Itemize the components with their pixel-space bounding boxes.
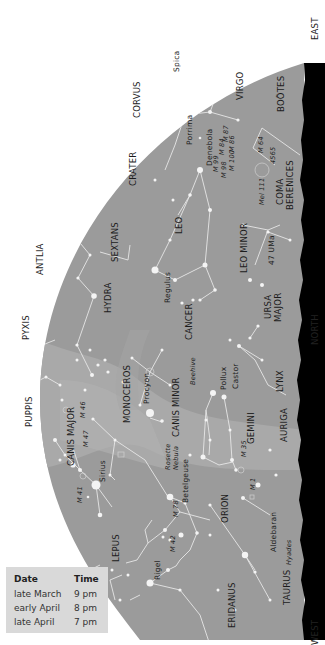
constellation-lynx: LYNX [276, 370, 285, 392]
star-procyon: Procyon [143, 373, 151, 404]
constellation-hydra: HYDRA [104, 282, 113, 313]
direction-east: EAST [311, 17, 320, 40]
star-regulus: Regulus [164, 272, 172, 303]
constellation-cancer: CANCER [185, 303, 194, 340]
object-mel-111: Mel 111 [259, 178, 266, 205]
constellation-taurus: TAURUS [283, 570, 292, 605]
object-m98: M 98 [221, 161, 228, 178]
constellation-orion: ORION [221, 494, 230, 523]
star-porrima: Porrima [186, 115, 194, 145]
constellation-canis-minor: CANIS MINOR [172, 377, 181, 437]
constellation-auriga: AURIGA [280, 408, 289, 442]
constellation-virgo: VIRGO [236, 71, 245, 100]
object-beehive: Beehive [190, 357, 197, 385]
constellation-canis-major: CANIS MAJOR [67, 407, 76, 466]
constellation-eridanus: ERIDANUS [228, 582, 237, 628]
legend-header-date: Date [14, 574, 38, 584]
constellation-coma-berenices-2: BERENICES [286, 160, 295, 210]
constellation-leo-minor: LEO MINOR [240, 223, 249, 273]
constellation-lepus: LEPUS [112, 534, 121, 562]
star-sirius: Sirius [99, 460, 107, 482]
legend-time: 7 pm [74, 617, 97, 627]
star-rigel: Rigel [154, 560, 162, 580]
constellation-monoceros: MONOCEROS [123, 365, 132, 423]
constellation-ursa-major-2: MAJOR [274, 293, 283, 322]
object-rosette-nebula: Rosette [165, 444, 172, 470]
star-aldebaran: Aldebaran [270, 512, 278, 552]
object-ngc-4565: 4565 [270, 147, 277, 164]
object-m99: M 99 [213, 155, 220, 172]
star-pollux: Pollux [220, 367, 228, 390]
star-betelgeuse: Betelgeuse [182, 459, 190, 503]
constellation-ursa-major: URSA [264, 295, 273, 319]
object-rosette-nebula-2: Nebula [173, 446, 180, 470]
constellation-crater: CRATER [129, 152, 138, 186]
constellation-sextans: SEXTANS [111, 222, 120, 262]
constellation-pyxis: PYXIS [22, 315, 31, 340]
legend-time: 9 pm [74, 589, 97, 599]
constellation-gemini: GEMINI [247, 412, 256, 444]
legend-header-time: Time [74, 574, 99, 584]
star-castor: Castor [232, 363, 240, 389]
legend-date: late April [14, 617, 55, 627]
direction-west: WEST [311, 620, 320, 645]
constellation-corvus: CORVUS [133, 81, 142, 118]
legend-date: late March [14, 589, 61, 599]
constellation-antlia: ANTLIA [36, 243, 45, 275]
object-hyades: Hyades [286, 540, 293, 565]
constellation-leo: LEO [175, 217, 184, 234]
direction-north: NORTH [311, 314, 320, 345]
object-m47: M 47 [83, 430, 90, 447]
object-m42: M 42 [170, 535, 177, 552]
legend-time: 8 pm [74, 603, 97, 613]
constellation-coma-berenices: COMA [276, 178, 285, 205]
object-m1: M 1 [250, 478, 257, 490]
object-m41: M 41 [77, 486, 84, 503]
object-m64: M 64 [258, 136, 265, 153]
object-m78: M 78 [173, 500, 180, 517]
star-spica: Spica [173, 51, 181, 72]
viewing-times-legend: Date Time late March 9 pm early April 8 … [6, 567, 108, 633]
legend-date: early April [14, 603, 60, 613]
object-m35: M 35 [241, 440, 248, 457]
constellation-bootes: BOÖTES [277, 76, 286, 112]
star-47-uma: 47 UMa [268, 235, 276, 265]
object-m100: M 100 [229, 150, 236, 171]
object-m46: M 46 [80, 401, 87, 418]
constellation-puppis: PUPPIS [25, 396, 34, 427]
